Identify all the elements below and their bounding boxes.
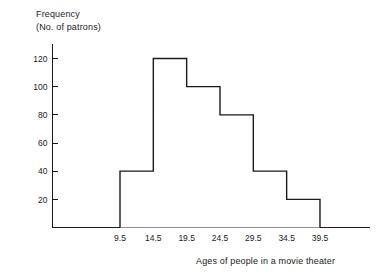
x-axis-tick-label: 39.5 xyxy=(312,233,329,243)
x-axis-tick-label: 34.5 xyxy=(278,233,295,243)
histogram-plot: 20406080100120 9.514.519.524.529.534.539… xyxy=(0,0,388,278)
y-axis-tick-label: 40 xyxy=(38,166,48,176)
y-axis-tick-label: 60 xyxy=(38,138,48,148)
y-axis: 20406080100120 xyxy=(33,44,58,228)
y-axis-tick-label: 20 xyxy=(38,195,48,205)
x-axis-tick-label: 29.5 xyxy=(245,233,262,243)
x-axis-tick-label: 14.5 xyxy=(145,233,162,243)
x-axis-tick-label: 19.5 xyxy=(178,233,195,243)
histogram-outline xyxy=(120,59,320,228)
y-axis-tick-label: 80 xyxy=(38,110,48,120)
histogram-figure: Frequency (No. of patrons) 2040608010012… xyxy=(0,0,388,278)
y-axis-tick-label: 100 xyxy=(33,82,47,92)
x-axis-tick-label: 9.5 xyxy=(114,233,126,243)
x-axis-tick-label: 24.5 xyxy=(212,233,229,243)
y-axis-tick-label: 120 xyxy=(33,54,47,64)
histogram-bars xyxy=(120,59,320,228)
x-axis-title: Ages of people in a movie theater xyxy=(196,256,335,266)
